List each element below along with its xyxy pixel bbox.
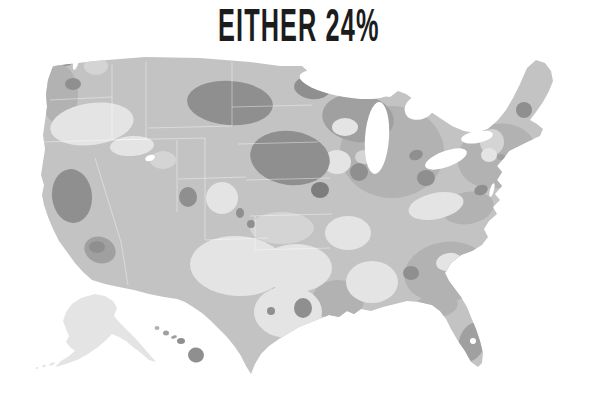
- molokai: [171, 335, 178, 339]
- central-utah-dark: [179, 187, 197, 207]
- central-texas-light: [254, 286, 322, 338]
- arkansas-light: [325, 216, 371, 250]
- new-york-city-dark: [497, 154, 505, 160]
- tacoma-dark: [65, 78, 81, 90]
- colorado-spot-dark-2: [247, 220, 255, 228]
- oahu: [163, 331, 169, 336]
- chicago-dark: [350, 163, 368, 181]
- salt-lake-light: [150, 151, 176, 169]
- aleutian-island-2: [42, 364, 46, 367]
- maine-dark: [516, 102, 532, 118]
- mississippi-alabama-light: [346, 261, 398, 303]
- hudson-valley-light: [481, 148, 497, 162]
- lake-okeechobee: [470, 338, 476, 344]
- northwest-washington-light: [84, 57, 108, 75]
- houston-dark: [294, 298, 312, 318]
- colorado-spot-dark-1: [236, 208, 244, 218]
- hawaii-big-island: [186, 346, 205, 365]
- south-minnesota-darkest: [311, 182, 329, 198]
- aleutian-island-3: [35, 367, 38, 369]
- aleutian-island-1: [49, 362, 55, 367]
- ohio-valley-dark: [417, 170, 435, 186]
- kauai: [155, 326, 160, 330]
- alaska-inset: [55, 294, 156, 367]
- colorado-light: [206, 182, 238, 214]
- us-choropleth-map: [0, 0, 598, 399]
- kansas-light: [250, 212, 314, 244]
- maui: [177, 338, 185, 344]
- seattle-dark: [59, 56, 73, 66]
- los-angeles-dark: [89, 241, 105, 253]
- atlanta-dark: [403, 266, 419, 280]
- dialect-survey-map-figure: EITHER 24%: [0, 0, 598, 399]
- north-texas-oklahoma-light: [260, 244, 332, 292]
- north-wisconsin-light: [332, 118, 358, 136]
- austin-dark: [267, 307, 275, 315]
